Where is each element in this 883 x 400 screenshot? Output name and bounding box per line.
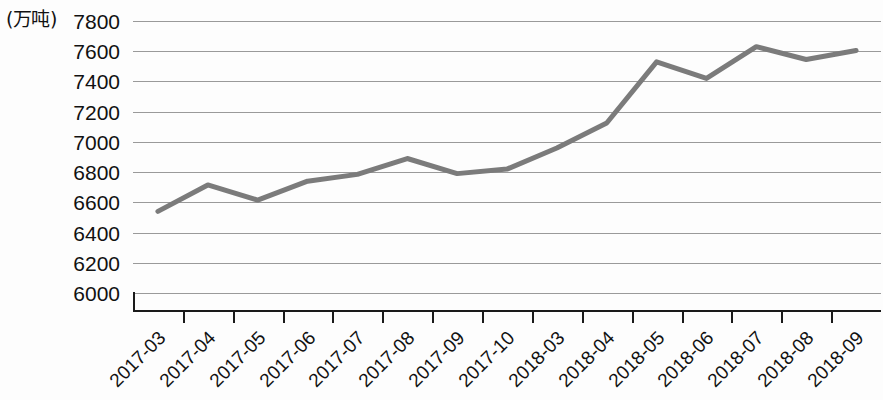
series-line-production	[158, 47, 856, 212]
y-axis-tick-label: 6200	[73, 252, 120, 273]
y-axis-line	[133, 292, 135, 312]
y-axis-tick-label: 6600	[73, 192, 120, 213]
y-axis-tick-label: 7800	[73, 11, 120, 32]
y-axis-tick-label: 7200	[73, 101, 120, 122]
x-axis-tick-labels: 2017-032017-042017-052017-062017-072017-…	[0, 311, 883, 400]
plot-area	[133, 0, 881, 311]
line-chart: (万吨) 60006200640066006800700072007400760…	[0, 0, 883, 400]
y-axis-tick-label: 7600	[73, 41, 120, 62]
y-axis-tick-label: 6000	[73, 283, 120, 304]
y-axis-tick-label: 6400	[73, 222, 120, 243]
y-axis-tick-label: 7000	[73, 131, 120, 152]
y-axis-tick-label: 6800	[73, 162, 120, 183]
y-axis-tick-label: 7400	[73, 71, 120, 92]
series-line-chart	[133, 0, 881, 311]
y-axis-tick-labels: 6000620064006600680070007200740076007800	[0, 0, 128, 320]
